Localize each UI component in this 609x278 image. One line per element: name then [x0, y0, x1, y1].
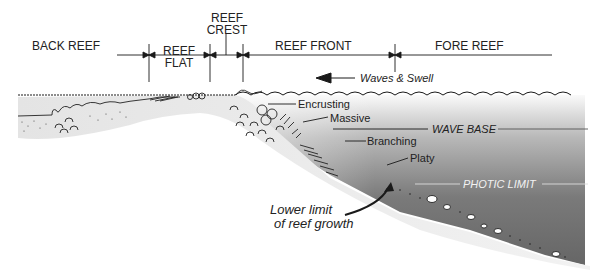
sea-surface [18, 92, 571, 95]
label-reef-flat-2: FLAT [162, 57, 196, 70]
label-reef-front: REEF FRONT [275, 40, 352, 53]
label-branching: Branching [367, 135, 417, 148]
label-encrusting: Encrusting [298, 98, 350, 111]
label-lower-limit-1: Lower limit [270, 203, 332, 216]
label-photic-limit: PHOTIC LIMIT [463, 178, 536, 191]
label-lower-limit-2: of reef growth [274, 217, 354, 230]
label-reef-crest-2: CREST [205, 24, 249, 37]
waves-arrow-icon [316, 73, 355, 83]
label-massive: Massive [330, 112, 370, 125]
label-waves-swell: Waves & Swell [360, 72, 433, 85]
label-wave-base: WAVE BASE [432, 123, 496, 136]
label-platy: Platy [410, 152, 434, 165]
label-fore-reef: FORE REEF [435, 40, 504, 53]
label-back-reef: BACK REEF [32, 40, 100, 53]
